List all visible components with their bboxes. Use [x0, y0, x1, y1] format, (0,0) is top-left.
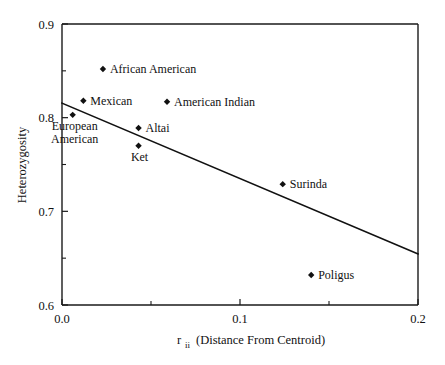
data-point-label: Surinda: [290, 177, 328, 191]
y-tick-label: 0.7: [38, 205, 54, 219]
chart-canvas: 0.90.80.70.6 0.00.10.2 African AmericanM…: [0, 0, 445, 365]
scatter-plot-figure: 0.90.80.70.6 0.00.10.2 African AmericanM…: [0, 0, 445, 365]
y-axis-title-text: Heterozygosity: [15, 126, 29, 203]
y-tick-label: 0.6: [38, 299, 54, 313]
data-point-label-line2: American: [51, 132, 98, 146]
x-axis-title-subscript: ii: [185, 340, 191, 350]
x-axis-title-rest: (Distance From Centroid): [196, 333, 325, 347]
data-point-label: American Indian: [174, 95, 255, 109]
data-point-label: Poligus: [318, 268, 354, 282]
y-axis-title: Heterozygosity: [15, 126, 29, 203]
x-tick-label: 0.0: [54, 312, 70, 326]
data-point-label: Altai: [146, 121, 171, 135]
x-tick-label: 0.2: [410, 312, 426, 326]
y-tick-label: 0.9: [38, 18, 54, 32]
data-point-label: Ket: [131, 150, 149, 164]
data-point: African American: [100, 62, 196, 76]
data-point: American Indian: [164, 95, 255, 109]
data-point-label: African American: [110, 62, 196, 76]
chart-background: [0, 0, 445, 365]
data-point-label-line1: European: [52, 119, 98, 133]
data-point-label: Mexican: [90, 94, 132, 108]
x-tick-label: 0.1: [232, 312, 248, 326]
